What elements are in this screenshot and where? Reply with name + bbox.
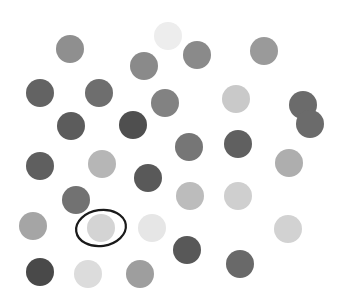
dot-20[interactable] <box>224 182 252 210</box>
dot-23[interactable] <box>87 214 115 242</box>
dot-25[interactable] <box>274 215 302 243</box>
dot-30[interactable] <box>126 260 154 288</box>
stimulus-canvas <box>0 0 337 304</box>
dot-31[interactable] <box>296 110 324 138</box>
dot-17[interactable] <box>275 149 303 177</box>
dot-3[interactable] <box>183 41 211 69</box>
dot-19[interactable] <box>176 182 204 210</box>
dot-16[interactable] <box>88 150 116 178</box>
dot-11[interactable] <box>57 112 85 140</box>
dot-15[interactable] <box>26 152 54 180</box>
dot-26[interactable] <box>173 236 201 264</box>
dot-22[interactable] <box>19 212 47 240</box>
dot-21[interactable] <box>62 186 90 214</box>
dot-13[interactable] <box>175 133 203 161</box>
dot-2[interactable] <box>154 22 182 50</box>
dot-7[interactable] <box>85 79 113 107</box>
dot-28[interactable] <box>26 258 54 286</box>
dot-4[interactable] <box>250 37 278 65</box>
dot-6[interactable] <box>26 79 54 107</box>
dot-12[interactable] <box>119 111 147 139</box>
dot-array-svg <box>0 0 337 304</box>
dot-27[interactable] <box>226 250 254 278</box>
dot-14[interactable] <box>224 130 252 158</box>
dot-9[interactable] <box>222 85 250 113</box>
dot-18[interactable] <box>134 164 162 192</box>
dot-29[interactable] <box>74 260 102 288</box>
dot-8[interactable] <box>151 89 179 117</box>
dot-24[interactable] <box>138 214 166 242</box>
dot-1[interactable] <box>56 35 84 63</box>
dot-5[interactable] <box>130 52 158 80</box>
